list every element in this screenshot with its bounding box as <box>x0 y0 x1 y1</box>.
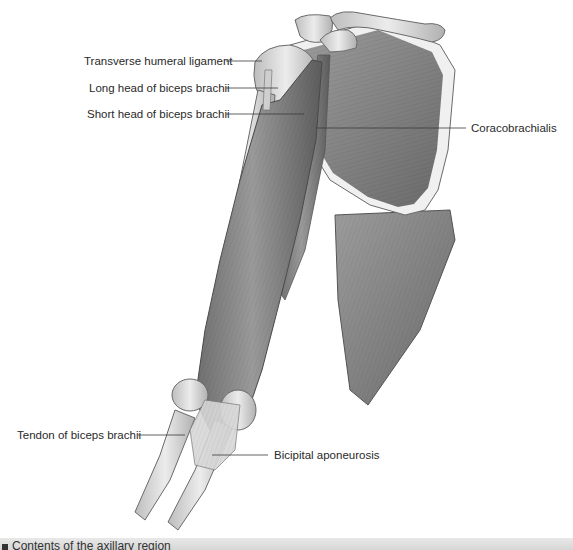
label-short-head-biceps: Short head of biceps brachii <box>87 107 230 121</box>
figure-caption: Contents of the axillary region <box>2 539 171 550</box>
teres-major-muscle <box>335 210 455 405</box>
caption-text: Contents of the axillary region <box>12 539 171 550</box>
figure-caption-bar: Contents of the axillary region <box>0 538 573 550</box>
biceps-tendon-aponeurosis <box>190 400 240 470</box>
label-coracobrachialis: Coracobrachialis <box>471 121 557 135</box>
label-transverse-humeral-ligament: Transverse humeral ligament <box>84 54 233 68</box>
label-long-head-biceps: Long head of biceps brachii <box>89 81 230 95</box>
label-tendon-biceps: Tendon of biceps brachii <box>17 428 141 442</box>
caption-bullet-icon <box>2 544 8 550</box>
label-bicipital-aponeurosis: Bicipital aponeurosis <box>274 448 379 462</box>
